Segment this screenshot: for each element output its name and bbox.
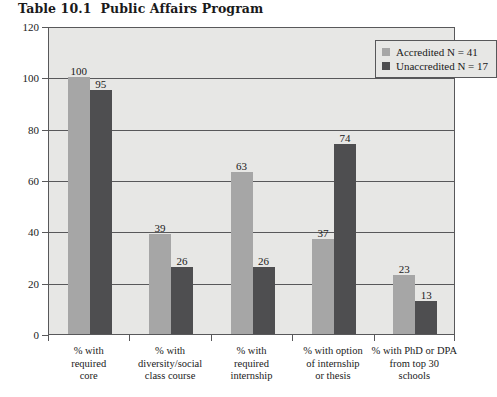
legend-item-unaccredited: Unaccredited N = 17 (382, 59, 488, 73)
title-text: Public Affairs Program (100, 1, 263, 16)
x-axis: % withrequiredcore% withdiversity/social… (48, 335, 455, 397)
bar-accredited (149, 234, 171, 334)
legend-label-unaccredited: Unaccredited N = 17 (396, 60, 488, 72)
y-axis-tick-label: 0 (34, 329, 40, 341)
bar-value-label: 39 (155, 222, 166, 234)
gridline (49, 78, 454, 79)
table-number: Table 10.1 (18, 1, 91, 16)
legend-label-accredited: Accredited N = 41 (396, 46, 478, 58)
x-axis-category-line: schools (367, 370, 462, 383)
bar-unaccredited (334, 144, 356, 334)
bar-unaccredited (171, 267, 193, 334)
bar-value-label: 26 (258, 255, 269, 267)
bar-value-label: 63 (236, 160, 247, 172)
legend-swatch-accredited-icon (382, 48, 390, 56)
x-axis-tick-mark (211, 335, 212, 341)
chart-legend: Accredited N = 41 Unaccredited N = 17 (375, 40, 497, 78)
plot-area: 100953926632637742313 Accredited N = 41 … (48, 27, 455, 335)
x-axis-category-label: % with PhD or DPAfrom top 30schools (367, 345, 462, 383)
x-axis-tick-mark (454, 335, 455, 341)
bar-value-label: 23 (399, 263, 410, 275)
x-axis-tick-mark (374, 335, 375, 341)
bar-accredited (393, 275, 415, 334)
bar-unaccredited (90, 90, 112, 334)
x-axis-tick-mark (48, 335, 49, 341)
y-axis-tick-label: 60 (28, 175, 39, 187)
bar-accredited (231, 172, 253, 334)
bar-unaccredited (415, 301, 437, 334)
y-axis-tick-label: 120 (23, 21, 40, 33)
bar-unaccredited (253, 267, 275, 334)
x-axis-tick-mark (292, 335, 293, 341)
bar-value-label: 100 (70, 65, 87, 77)
bar-accredited (312, 239, 334, 334)
bar-value-label: 13 (421, 289, 432, 301)
y-axis-tick-label: 40 (28, 226, 39, 238)
bar-value-label: 26 (177, 255, 188, 267)
y-axis-tick-label: 80 (28, 124, 39, 136)
bar-value-label: 95 (95, 78, 106, 90)
legend-item-accredited: Accredited N = 41 (382, 45, 488, 59)
x-axis-category-line: % with PhD or DPA (367, 345, 462, 358)
y-axis: 020406080100120 (0, 27, 48, 335)
page-title: Table 10.1Public Affairs Program (18, 1, 263, 16)
bar-accredited (68, 77, 90, 334)
x-axis-tick-mark (129, 335, 130, 341)
bar-value-label: 74 (339, 132, 350, 144)
x-axis-category-line: from top 30 (367, 358, 462, 371)
bar-value-label: 37 (317, 227, 328, 239)
y-axis-tick-label: 100 (23, 72, 40, 84)
y-axis-tick-label: 20 (28, 278, 39, 290)
legend-swatch-unaccredited-icon (382, 62, 390, 70)
bar-chart-figure: 020406080100120 100953926632637742313 Ac… (0, 19, 474, 397)
